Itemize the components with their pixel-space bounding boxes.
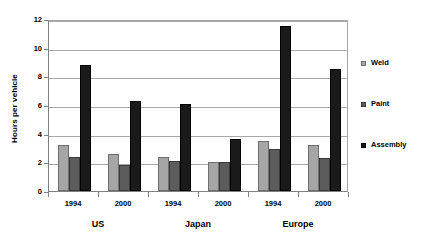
bar-chart: Hours per vehicle 024681012 199420001994… — [0, 0, 426, 245]
bar-assembly-3 — [230, 139, 241, 191]
y-tick-label: 8 — [2, 74, 42, 82]
bar-weld-5 — [308, 145, 319, 191]
x-group-label-us: US — [58, 219, 138, 229]
x-tick-mark — [298, 192, 299, 197]
bar-paint-1 — [119, 165, 130, 191]
legend-swatch-icon — [361, 143, 366, 148]
bar-paint-0 — [69, 157, 80, 191]
y-tick-label: 0 — [2, 188, 42, 196]
bar-weld-4 — [258, 141, 269, 191]
bar-assembly-1 — [130, 101, 141, 191]
bar-weld-3 — [208, 162, 219, 191]
x-group-label-europe: Europe — [258, 219, 338, 229]
y-tick-label: 6 — [2, 102, 42, 110]
bar-weld-2 — [158, 157, 169, 191]
legend-item-assembly[interactable]: Assembly — [361, 140, 423, 150]
gridline — [49, 164, 347, 165]
bar-paint-5 — [319, 158, 330, 191]
x-group-label-japan: Japan — [158, 219, 238, 229]
gridline — [49, 136, 347, 137]
bar-assembly-0 — [80, 65, 91, 191]
bar-paint-4 — [269, 149, 280, 191]
x-tick-label: 2000 — [197, 199, 249, 208]
x-tick-label: 2000 — [97, 199, 149, 208]
plot-area — [48, 20, 348, 192]
gridline — [49, 78, 347, 79]
x-tick-mark — [98, 192, 99, 197]
bar-paint-2 — [169, 161, 180, 191]
bar-assembly-2 — [180, 104, 191, 191]
x-tick-mark — [248, 192, 249, 197]
x-tick-mark — [148, 192, 149, 197]
legend-item-paint[interactable]: Paint — [361, 99, 423, 109]
x-tick-mark — [48, 192, 49, 197]
x-tick-label: 1994 — [147, 199, 199, 208]
legend-label: Assembly — [371, 141, 406, 149]
gridline — [49, 107, 347, 108]
gridline — [49, 50, 347, 51]
bar-assembly-4 — [280, 26, 291, 191]
bar-weld-0 — [58, 145, 69, 191]
legend-label: Weld — [371, 59, 389, 67]
x-tick-label: 1994 — [47, 199, 99, 208]
legend-swatch-icon — [361, 102, 366, 107]
x-tick-label: 1994 — [247, 199, 299, 208]
legend-swatch-icon — [361, 61, 366, 66]
bar-assembly-5 — [330, 69, 341, 191]
bar-weld-1 — [108, 154, 119, 191]
y-tick-label: 4 — [2, 131, 42, 139]
x-tick-mark — [198, 192, 199, 197]
x-tick-mark — [348, 192, 349, 197]
bar-paint-3 — [219, 162, 230, 191]
legend-label: Paint — [371, 100, 389, 108]
y-tick-label: 12 — [2, 16, 42, 24]
legend-item-weld[interactable]: Weld — [361, 58, 423, 68]
chart-legend: WeldPaintAssembly — [361, 58, 423, 181]
x-tick-label: 2000 — [297, 199, 349, 208]
y-tick-label: 2 — [2, 160, 42, 168]
y-tick-label: 10 — [2, 45, 42, 53]
gridline — [49, 21, 347, 22]
